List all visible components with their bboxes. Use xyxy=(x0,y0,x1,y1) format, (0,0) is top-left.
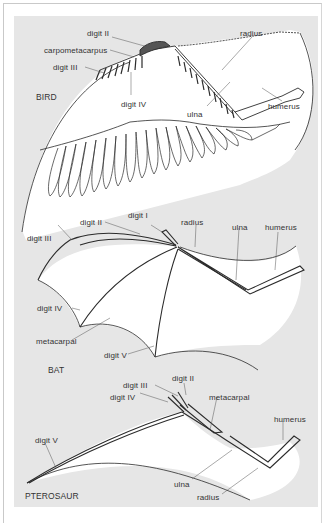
bat-label-digit-ii: digit II xyxy=(80,218,102,227)
bird-title: BIRD xyxy=(36,93,57,102)
bat-label-humerus: humerus xyxy=(265,223,297,232)
pterosaur-label-digit-iii: digit III xyxy=(123,381,147,390)
bird-wing-drawing xyxy=(22,30,313,240)
pterosaur-label-humerus: humerus xyxy=(274,415,306,424)
bat-label-metacarpal: metacarpal xyxy=(36,337,77,346)
bird-label-digit-iii: digit III xyxy=(53,63,77,72)
bird-label-digit-iv: digit IV xyxy=(121,100,146,109)
bird-label-ulna: ulna xyxy=(187,110,203,119)
pterosaur-label-radius: radius xyxy=(197,493,219,502)
pterosaur-label-digit-v: digit V xyxy=(35,436,58,445)
bird-label-carpometacarpus: carpometacarpus xyxy=(44,46,107,55)
bird-label-radius: radius xyxy=(240,29,262,38)
pterosaur-wing-drawing xyxy=(27,383,300,500)
pterosaur-label-ulna: ulna xyxy=(174,480,190,489)
pterosaur-title: PTEROSAUR xyxy=(25,492,79,501)
pterosaur-label-digit-ii: digit II xyxy=(172,374,194,383)
bird-label-humerus: humerus xyxy=(268,102,300,111)
bat-label-ulna: ulna xyxy=(232,223,248,232)
bat-label-digit-iv: digit IV xyxy=(37,304,62,313)
bat-title: BAT xyxy=(48,366,64,375)
bat-wing-drawing xyxy=(38,222,304,370)
bird-label-digit-ii: digit II xyxy=(87,29,109,38)
bat-label-digit-v: digit V xyxy=(104,351,127,360)
bat-label-radius: radius xyxy=(181,218,203,227)
bat-label-digit-i: digit I xyxy=(128,211,148,220)
pterosaur-label-digit-iv: digit IV xyxy=(110,393,135,402)
bat-label-digit-iii: digit III xyxy=(27,234,51,243)
pterosaur-label-metacarpal: metacarpal xyxy=(209,393,250,402)
